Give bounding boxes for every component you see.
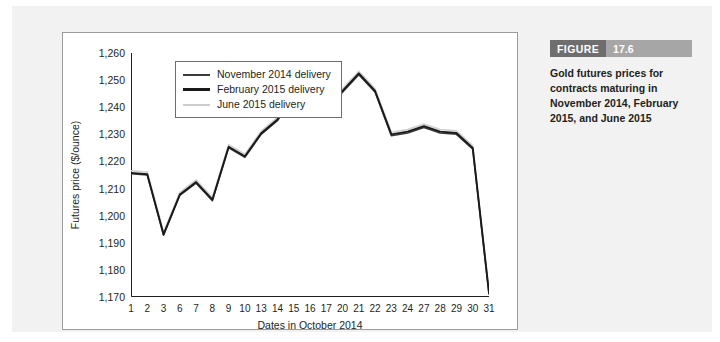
- y-axis-tick-label: 1,210: [99, 183, 125, 194]
- x-axis-tick-label: 7: [193, 304, 199, 314]
- legend-swatch-june: [183, 104, 210, 106]
- x-axis-tick-label: 20: [337, 304, 348, 314]
- x-axis-tick-label: 17: [321, 304, 332, 314]
- plot-area: Futures price ($/ounce) Dates in October…: [131, 53, 489, 297]
- x-axis-tick-label: 23: [386, 304, 397, 314]
- x-axis-tick-label: 24: [402, 304, 413, 314]
- y-axis-tick-label: 1,180: [99, 265, 125, 276]
- figure-label: FIGURE: [550, 40, 606, 57]
- x-axis-tick-label: 13: [256, 304, 267, 314]
- x-axis-tick-label: 21: [353, 304, 364, 314]
- y-axis-tick-label: 1,250: [99, 75, 125, 86]
- y-axis-tick-label: 1,220: [99, 156, 125, 167]
- legend-swatch-february: [183, 88, 210, 91]
- x-axis-tick-label: 15: [288, 304, 299, 314]
- y-axis-tick-label: 1,200: [99, 210, 125, 221]
- x-axis-tick-label: 27: [418, 304, 429, 314]
- x-axis-tick-label: 16: [304, 304, 315, 314]
- y-axis-title: Futures price ($/ounce): [69, 121, 81, 230]
- legend-label-june: June 2015 delivery: [217, 99, 305, 110]
- x-axis-tick-label: 31: [483, 304, 494, 314]
- legend-swatch-november: [183, 74, 210, 76]
- x-axis-tick-label: 22: [370, 304, 381, 314]
- x-axis-tick-label: 8: [210, 304, 216, 314]
- x-axis-tick-label: 14: [272, 304, 283, 314]
- x-axis-tick-label: 30: [467, 304, 478, 314]
- figure-screenshot: Futures price ($/ounce) Dates in October…: [0, 0, 720, 342]
- x-axis-tick-label: 1: [128, 304, 134, 314]
- legend-label-february: February 2015 delivery: [217, 84, 324, 95]
- figure-number: 17.6: [606, 40, 692, 57]
- figure-panel: Futures price ($/ounce) Dates in October…: [12, 6, 712, 332]
- legend-label-november: November 2014 delivery: [217, 69, 331, 80]
- y-axis-tick-label: 1,170: [99, 292, 125, 303]
- y-axis-tick-label: 1,190: [99, 238, 125, 249]
- figure-header-bar: FIGURE 17.6: [550, 40, 692, 57]
- legend-item: June 2015 delivery: [183, 97, 331, 112]
- x-axis-tick-label: 28: [435, 304, 446, 314]
- chart-frame: Futures price ($/ounce) Dates in October…: [62, 32, 518, 330]
- legend-item: November 2014 delivery: [183, 67, 331, 82]
- y-axis-tick-label: 1,230: [99, 129, 125, 140]
- legend-item: February 2015 delivery: [183, 82, 331, 97]
- x-axis-tick-label: 9: [226, 304, 232, 314]
- x-axis-tick-label: 29: [451, 304, 462, 314]
- y-axis-tick-label: 1,260: [99, 48, 125, 59]
- figure-caption-text: Gold futures prices for contracts maturi…: [550, 66, 682, 126]
- x-axis-tick-label: 3: [161, 304, 167, 314]
- x-axis-title: Dates in October 2014: [257, 319, 362, 331]
- x-axis-tick-label: 10: [239, 304, 250, 314]
- figure-panel-inner: Futures price ($/ounce) Dates in October…: [34, 18, 690, 318]
- y-axis-tick-label: 1,240: [99, 102, 125, 113]
- figure-caption-block: FIGURE 17.6 Gold futures prices for cont…: [550, 40, 700, 126]
- x-axis-tick-label: 2: [144, 304, 150, 314]
- chart-legend: November 2014 delivery February 2015 del…: [175, 61, 342, 118]
- x-axis-tick-label: 6: [177, 304, 183, 314]
